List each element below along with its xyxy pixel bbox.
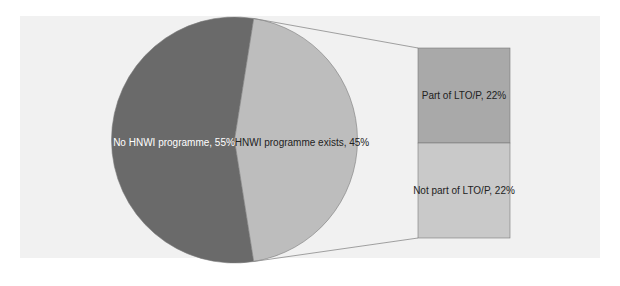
bar-label-part-of-lto: Part of LTO/P, 22% xyxy=(422,90,507,101)
pie-of-bar-chart: No HNWI programme, 55% HNWI programme ex… xyxy=(0,0,620,286)
pie-label-no-hnwi: No HNWI programme, 55% xyxy=(113,137,235,148)
stacked-bar xyxy=(418,48,510,238)
bar-label-not-part-of-lto: Not part of LTO/P, 22% xyxy=(413,185,515,196)
pie-label-hnwi-exists: HNWI programme exists, 45% xyxy=(235,137,370,148)
